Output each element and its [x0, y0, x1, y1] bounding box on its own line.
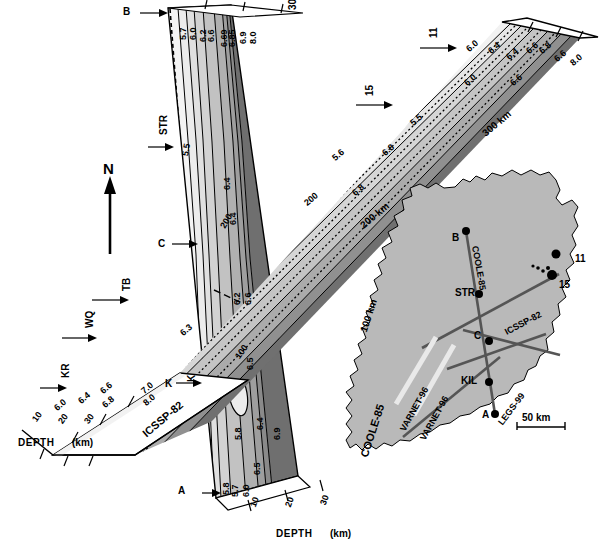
- contour-label: 6.0: [241, 484, 251, 497]
- station-label-b: B: [123, 6, 130, 17]
- contour-label: 6.4: [222, 177, 232, 190]
- contour-label: 6.2: [232, 292, 242, 305]
- contour-label: 6.9: [238, 31, 248, 44]
- contour-label: 5.5: [180, 143, 192, 157]
- station-label-k: K: [165, 378, 172, 389]
- station-label-k-icssp: K: [186, 375, 197, 382]
- coole-distance-300km: 300 km: [287, 0, 298, 10]
- contour-label: 5.7: [178, 27, 188, 40]
- station-label-11: 11: [428, 27, 439, 38]
- depth-axis-unit: (km): [72, 437, 93, 448]
- depth-axis-unit: (km): [330, 528, 351, 539]
- map-scale-bar-label: 50 km: [522, 412, 550, 423]
- depth-axis-label: DEPTH: [276, 528, 312, 539]
- contour-label: 6.6: [243, 292, 253, 305]
- contour-label: 5.7: [230, 484, 240, 497]
- contour-label: 6.4: [255, 417, 265, 430]
- contour-label: 6.6: [206, 29, 216, 42]
- contour-label: 6.9: [272, 427, 282, 440]
- contour-label: 6.85: [227, 29, 237, 47]
- map-station-kil: KIL: [461, 375, 477, 386]
- depth-axis-label: DEPTH: [18, 437, 54, 448]
- map-station-c: C: [474, 330, 481, 341]
- map-station-a: A: [482, 409, 489, 420]
- north-arrow: [104, 176, 116, 254]
- contour-label: 6.5: [245, 357, 255, 370]
- map-station-b: B: [452, 232, 459, 243]
- station-label-tb: TB: [121, 278, 132, 291]
- map-station-11: 11: [575, 253, 586, 264]
- station-label-wq: WQ: [84, 311, 95, 328]
- contour-label: 6.0: [188, 27, 198, 40]
- north-arrow-label: N: [103, 160, 114, 177]
- contour-label: 6.5: [252, 462, 262, 475]
- station-label-str: STR: [158, 115, 169, 135]
- contour-label: 8.0: [248, 31, 258, 44]
- figure-root: 5.7 6.0 6.2 6.6 6.69 6.85 6.9 8.0 5.5 6.…: [0, 0, 609, 546]
- station-label-c: C: [158, 238, 165, 249]
- contour-label: 5.8: [233, 427, 243, 440]
- station-label-15: 15: [364, 85, 375, 96]
- station-label-kr: KR: [60, 364, 71, 378]
- map-station-str: STR: [455, 287, 475, 298]
- scale-bar: [517, 422, 565, 430]
- station-label-a: A: [178, 485, 185, 496]
- map-station-15: 15: [559, 279, 570, 290]
